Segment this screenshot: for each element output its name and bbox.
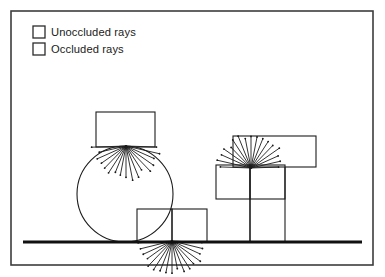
ray-endpoint-dot — [244, 138, 246, 140]
ray-endpoint-dot — [125, 176, 127, 178]
ray-endpoint-dot — [119, 174, 121, 176]
ray-endpoint-dot — [262, 138, 264, 140]
legend-swatch-occluded — [33, 43, 45, 55]
ray-endpoint-dot — [171, 272, 173, 274]
ray-endpoint-dot — [153, 269, 155, 271]
ray-endpoint-dot — [153, 158, 155, 160]
ray-endpoint-dot — [153, 164, 155, 166]
ray-endpoint-dot — [277, 155, 279, 157]
ray-endpoint-dot — [96, 158, 98, 160]
ray-endpoint-dot — [267, 141, 269, 143]
ray-endpoint-dot — [156, 146, 158, 148]
ray-endpoint-dot — [91, 146, 93, 148]
ray-endpoint-dot — [221, 154, 223, 156]
ray-endpoint-dot — [147, 265, 149, 267]
ray-endpoint-dot — [193, 263, 195, 265]
ray-endpoint-dot — [159, 270, 161, 272]
ray-endpoint-dot — [272, 145, 274, 147]
ray-endpoint-dot — [189, 268, 191, 270]
ray-endpoint-dot — [183, 271, 185, 273]
ray-endpoint-dot — [279, 160, 281, 162]
legend-label-occluded: Occluded rays — [51, 43, 124, 55]
ray-occlusion-figure: Unoccluded raysOccluded rays — [0, 0, 385, 277]
ray-endpoint-dot — [101, 162, 103, 164]
ray-endpoint-dot — [278, 166, 280, 168]
ray-endpoint-dot — [108, 172, 110, 174]
ray-endpoint-dot — [230, 147, 232, 149]
ray-endpoint-dot — [114, 171, 116, 173]
ray-endpoint-dot — [142, 253, 144, 255]
ray-endpoint-dot — [216, 159, 218, 161]
legend-swatch-unoccluded — [33, 26, 45, 38]
ray-endpoint-dot — [165, 272, 167, 274]
ray-endpoint-dot — [159, 153, 161, 155]
figure-background — [0, 0, 385, 277]
ray-endpoint-dot — [199, 253, 201, 255]
ray-endpoint-dot — [232, 139, 234, 141]
ray-endpoint-dot — [141, 169, 143, 171]
ray-endpoint-dot — [237, 135, 239, 137]
ray-endpoint-dot — [256, 136, 258, 138]
ray-endpoint-dot — [176, 268, 178, 270]
ray-endpoint-dot — [202, 248, 204, 250]
ray-endpoint-dot — [278, 147, 280, 149]
figure-canvas: Unoccluded raysOccluded rays — [0, 0, 385, 277]
ray-endpoint-dot — [250, 136, 252, 138]
ray-endpoint-dot — [223, 148, 225, 150]
ray-endpoint-dot — [132, 179, 134, 181]
ray-endpoint-dot — [147, 258, 149, 260]
ray-endpoint-dot — [219, 166, 221, 168]
legend-label-unoccluded: Unoccluded rays — [51, 26, 136, 38]
ray-endpoint-dot — [149, 170, 151, 172]
ray-endpoint-dot — [138, 176, 140, 178]
ray-endpoint-dot — [104, 167, 106, 169]
ray-endpoint-dot — [199, 260, 201, 262]
ray-endpoint-dot — [98, 151, 100, 153]
ray-endpoint-dot — [140, 248, 142, 250]
